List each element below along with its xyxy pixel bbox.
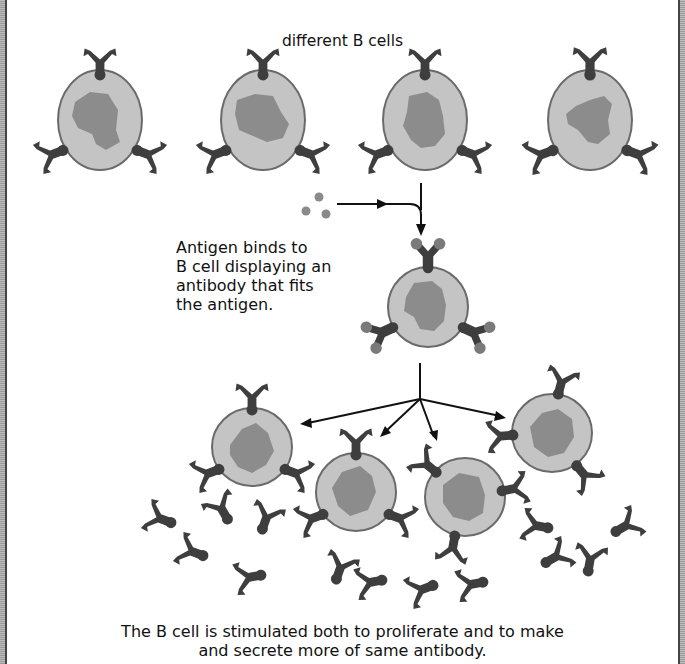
selected-b-cell [359, 238, 498, 356]
arrowhead-mid [377, 199, 388, 209]
daughter-cell-4 [485, 364, 606, 497]
b-cell-4 [521, 47, 659, 176]
arrowhead-down [416, 224, 426, 236]
daughter-cell-3 [405, 443, 531, 565]
antigen-particles [302, 193, 331, 219]
b-cell-1 [33, 49, 168, 175]
b-cell-diagram [0, 0, 685, 664]
daughter-cell-1 [189, 384, 316, 494]
daughter-cell-2 [293, 429, 420, 539]
b-cell-3 [358, 49, 493, 175]
proliferation-arrows [308, 363, 500, 437]
b-cell-2 [196, 49, 331, 175]
